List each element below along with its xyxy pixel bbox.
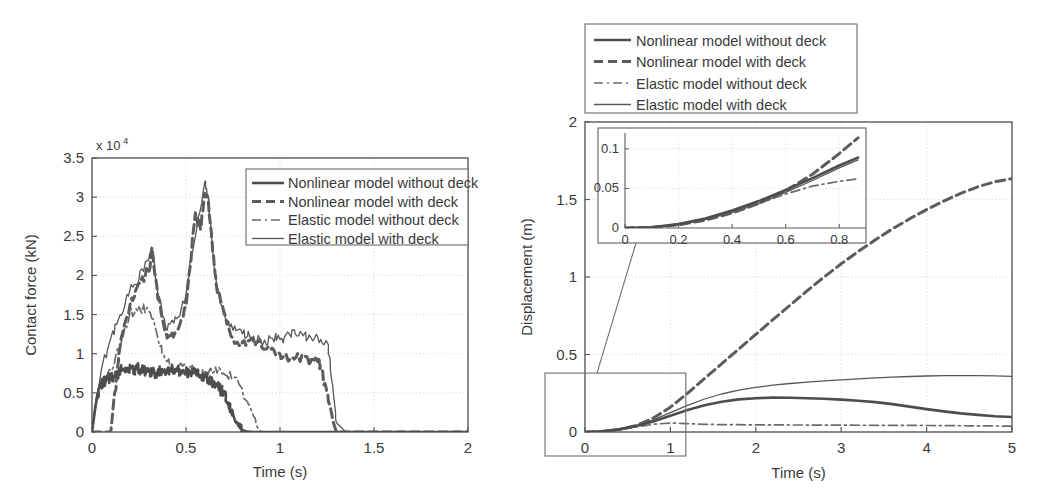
inset-x-tick-label: 0.8: [830, 232, 848, 247]
figure-svg: 00.511.5200.511.522.533.5x 104Time (s)Co…: [0, 0, 1043, 503]
y-tick-label: 1: [569, 268, 577, 285]
y-tick-label: 3: [76, 188, 84, 205]
x-tick-label: 5: [1008, 439, 1016, 456]
inset-y-tick-label: 0.1: [601, 141, 619, 156]
y-tick-label: 3.5: [63, 149, 84, 166]
inset-x-tick-label: 0: [621, 232, 628, 247]
x-axis-title: Time (s): [771, 464, 825, 481]
legend-label: Elastic model with deck: [288, 231, 439, 247]
y-tick-label: 2: [569, 113, 577, 130]
legend: Nonlinear model without deckNonlinear mo…: [585, 24, 857, 113]
x-tick-label: 2: [464, 439, 472, 456]
x-tick-label: 0.5: [176, 439, 197, 456]
x-tick-label: 3: [837, 439, 845, 456]
y-tick-label: 2.5: [63, 227, 84, 244]
y-axis-exponent: 4: [123, 135, 128, 146]
y-tick-label: 0: [76, 423, 84, 440]
inset-y-tick-label: 0.05: [594, 180, 619, 195]
y-axis-title: Contact force (kN): [22, 234, 39, 356]
y-axis-title: Displacement (m): [518, 218, 535, 336]
legend-label: Elastic model with deck: [636, 97, 787, 113]
y-axis-multiplier: x 10: [96, 138, 121, 153]
y-tick-label: 0.5: [63, 384, 84, 401]
inset-x-tick-label: 0.6: [777, 232, 795, 247]
legend: Nonlinear model without deckNonlinear mo…: [246, 169, 479, 247]
inset-x-tick-label: 0.4: [723, 232, 741, 247]
x-tick-label: 4: [922, 439, 930, 456]
legend-label: Elastic model without deck: [288, 212, 460, 228]
y-tick-label: 0: [569, 423, 577, 440]
y-tick-label: 1: [76, 345, 84, 362]
y-tick-label: 0.5: [556, 346, 577, 363]
y-tick-label: 2: [76, 266, 84, 283]
x-axis-title: Time (s): [253, 463, 307, 480]
x-tick-label: 2: [752, 439, 760, 456]
inset-y-tick-label: 0: [612, 220, 619, 235]
legend-label: Nonlinear model without deck: [288, 175, 479, 191]
legend-label: Nonlinear model with deck: [288, 194, 459, 210]
inset-x-tick-label: 0.2: [670, 232, 688, 247]
figure-container: 00.511.5200.511.522.533.5x 104Time (s)Co…: [0, 0, 1043, 503]
y-tick-label: 1.5: [556, 191, 577, 208]
inset-group: 00.20.40.60.800.050.1: [594, 128, 866, 247]
x-tick-label: 0: [581, 439, 589, 456]
legend-label: Nonlinear model without deck: [636, 33, 827, 49]
legend-label: Nonlinear model with deck: [636, 54, 807, 70]
x-tick-label: 1: [666, 439, 674, 456]
x-tick-label: 1: [276, 439, 284, 456]
y-tick-label: 1.5: [63, 306, 84, 323]
x-tick-label: 0: [88, 439, 96, 456]
x-tick-label: 1.5: [364, 439, 385, 456]
legend-label: Elastic model without deck: [636, 76, 808, 92]
